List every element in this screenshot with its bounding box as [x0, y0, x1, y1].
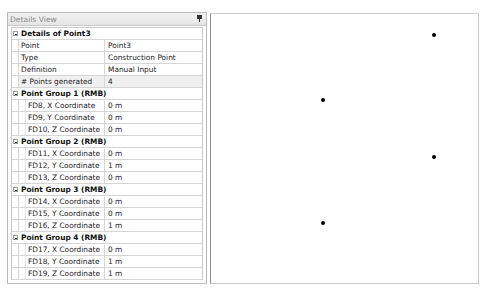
- property-value[interactable]: 0 m: [105, 208, 202, 219]
- category-label: Point Group 4 (RMB): [19, 233, 106, 242]
- parameter-checkbox[interactable]: [19, 100, 26, 111]
- property-name: Type: [19, 52, 105, 63]
- property-row[interactable]: FD18, Y Coordinate 1 m: [12, 256, 202, 268]
- parameter-checkbox[interactable]: [19, 112, 26, 123]
- parameter-checkbox[interactable]: [19, 220, 26, 231]
- property-row[interactable]: FD12, Y Coordinate 1 m: [12, 160, 202, 172]
- parameter-checkbox[interactable]: [19, 124, 26, 135]
- category-label: Details of Point3: [19, 29, 91, 38]
- property-row[interactable]: FD14, X Coordinate 0 m: [12, 196, 202, 208]
- row-gutter: [12, 220, 19, 231]
- property-value[interactable]: 1 m: [105, 160, 202, 171]
- parameter-checkbox[interactable]: [19, 268, 26, 279]
- details-view-panel: Details View Details of Point3 Point Poi…: [7, 12, 207, 284]
- property-row[interactable]: # Points generated 4: [12, 76, 202, 88]
- property-value[interactable]: 1 m: [105, 268, 202, 279]
- property-value[interactable]: 0 m: [105, 196, 202, 207]
- property-name: FD19, Z Coordinate: [26, 268, 105, 279]
- property-name: FD8, X Coordinate: [26, 100, 105, 111]
- construction-point-marker[interactable]: [432, 155, 436, 159]
- property-name: Definition: [19, 64, 105, 75]
- property-name: Point: [19, 40, 105, 51]
- pin-icon[interactable]: [197, 15, 202, 22]
- panel-title: Details View: [10, 15, 57, 24]
- property-name: # Points generated: [19, 76, 105, 87]
- property-row[interactable]: FD10, Z Coordinate 0 m: [12, 124, 202, 136]
- row-gutter: [12, 268, 19, 279]
- property-row[interactable]: Type Construction Point: [12, 52, 202, 64]
- category-point-group-1[interactable]: Point Group 1 (RMB): [12, 88, 202, 100]
- row-gutter: [12, 148, 19, 159]
- property-row[interactable]: FD19, Z Coordinate 1 m: [12, 268, 202, 280]
- collapse-icon[interactable]: [12, 232, 19, 243]
- row-gutter: [12, 256, 19, 267]
- parameter-checkbox[interactable]: [19, 256, 26, 267]
- property-row[interactable]: FD9, Y Coordinate 0 m: [12, 112, 202, 124]
- property-value[interactable]: Point3: [105, 40, 202, 51]
- collapse-icon[interactable]: [12, 88, 19, 99]
- property-name: FD18, Y Coordinate: [26, 256, 105, 267]
- category-details[interactable]: Details of Point3: [12, 28, 202, 40]
- category-point-group-3[interactable]: Point Group 3 (RMB): [12, 184, 202, 196]
- row-gutter: [12, 40, 19, 51]
- property-name: FD15, Y Coordinate: [26, 208, 105, 219]
- property-name: FD11, X Coordinate: [26, 148, 105, 159]
- collapse-icon[interactable]: [12, 28, 19, 39]
- property-row[interactable]: FD15, Y Coordinate 0 m: [12, 208, 202, 220]
- parameter-checkbox[interactable]: [19, 244, 26, 255]
- property-value[interactable]: 1 m: [105, 256, 202, 267]
- property-value[interactable]: 0 m: [105, 100, 202, 111]
- property-value[interactable]: Construction Point: [105, 52, 202, 63]
- property-name: FD13, Z Coordinate: [26, 172, 105, 183]
- construction-point-marker[interactable]: [321, 98, 325, 102]
- property-name: FD17, X Coordinate: [26, 244, 105, 255]
- parameter-checkbox[interactable]: [19, 160, 26, 171]
- category-label: Point Group 1 (RMB): [19, 89, 106, 98]
- parameter-checkbox[interactable]: [19, 148, 26, 159]
- property-value[interactable]: 0 m: [105, 148, 202, 159]
- property-name: FD12, Y Coordinate: [26, 160, 105, 171]
- parameter-checkbox[interactable]: [19, 196, 26, 207]
- parameter-checkbox[interactable]: [19, 208, 26, 219]
- property-value[interactable]: 0 m: [105, 244, 202, 255]
- row-gutter: [12, 76, 19, 87]
- row-gutter: [12, 172, 19, 183]
- row-gutter: [12, 52, 19, 63]
- details-view-header: Details View: [8, 13, 206, 26]
- category-label: Point Group 3 (RMB): [19, 185, 106, 194]
- property-value[interactable]: 0 m: [105, 112, 202, 123]
- property-row[interactable]: Definition Manual Input: [12, 64, 202, 76]
- property-value[interactable]: Manual Input: [105, 64, 202, 75]
- graphics-viewport[interactable]: [210, 13, 479, 284]
- construction-point-marker[interactable]: [432, 33, 436, 37]
- construction-point-marker[interactable]: [321, 221, 325, 225]
- property-value[interactable]: 0 m: [105, 124, 202, 135]
- property-value[interactable]: 1 m: [105, 220, 202, 231]
- row-gutter: [12, 244, 19, 255]
- category-label: Point Group 2 (RMB): [19, 137, 106, 146]
- collapse-icon[interactable]: [12, 184, 19, 195]
- property-row[interactable]: FD11, X Coordinate 0 m: [12, 148, 202, 160]
- property-name: FD16, Z Coordinate: [26, 220, 105, 231]
- property-grid: Details of Point3 Point Point3 Type Cons…: [11, 27, 203, 280]
- category-point-group-2[interactable]: Point Group 2 (RMB): [12, 136, 202, 148]
- property-value[interactable]: 4: [105, 76, 202, 87]
- collapse-icon[interactable]: [12, 136, 19, 147]
- property-name: FD14, X Coordinate: [26, 196, 105, 207]
- property-row[interactable]: FD17, X Coordinate 0 m: [12, 244, 202, 256]
- property-name: FD9, Y Coordinate: [26, 112, 105, 123]
- property-row[interactable]: FD16, Z Coordinate 1 m: [12, 220, 202, 232]
- property-name: FD10, Z Coordinate: [26, 124, 105, 135]
- row-gutter: [12, 124, 19, 135]
- row-gutter: [12, 100, 19, 111]
- property-row[interactable]: FD8, X Coordinate 0 m: [12, 100, 202, 112]
- property-row[interactable]: Point Point3: [12, 40, 202, 52]
- property-row[interactable]: FD13, Z Coordinate 0 m: [12, 172, 202, 184]
- parameter-checkbox[interactable]: [19, 172, 26, 183]
- row-gutter: [12, 112, 19, 123]
- category-point-group-4[interactable]: Point Group 4 (RMB): [12, 232, 202, 244]
- property-value[interactable]: 0 m: [105, 172, 202, 183]
- row-gutter: [12, 64, 19, 75]
- row-gutter: [12, 208, 19, 219]
- row-gutter: [12, 196, 19, 207]
